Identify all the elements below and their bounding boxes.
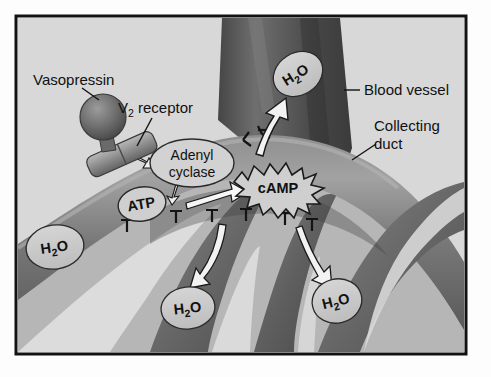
water-h: H (173, 300, 185, 317)
figure-canvas: Vasopressin V2 receptor Blood vessel Col… (18, 18, 464, 352)
label-vasopressin: Vasopressin (33, 71, 114, 88)
water-o: O (189, 299, 202, 316)
v2-suffix: receptor (134, 99, 193, 116)
water-o: O (56, 237, 69, 254)
label-adenyl-cyclase: Adenyl cyclase (169, 147, 216, 180)
label-collecting-duct-line2: duct (374, 135, 403, 152)
label-collecting-duct-line1: Collecting (374, 117, 440, 134)
figure-root: Vasopressin V2 receptor Blood vessel Col… (0, 0, 491, 377)
anatomical-diagram: Vasopressin V2 receptor Blood vessel Col… (0, 0, 491, 377)
adenyl-cyclase-line2: cyclase (169, 164, 216, 180)
adenyl-cyclase-line1: Adenyl (171, 147, 214, 163)
v2-prefix: V (118, 99, 128, 116)
label-blood-vessel: Blood vessel (364, 81, 449, 98)
label-camp: cAMP (258, 180, 299, 196)
